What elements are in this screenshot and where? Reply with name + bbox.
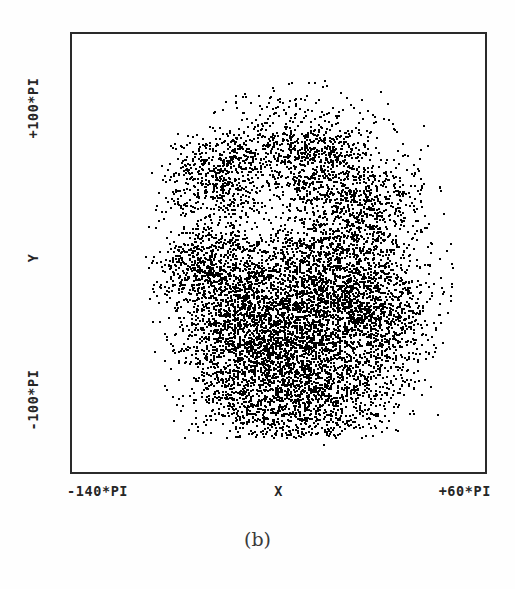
x-axis-max-label: +60*PI [439,483,491,499]
y-axis-max-label-text: +100*PI [25,77,41,138]
y-axis-min-label: -100*PI [0,392,66,408]
figure-caption: (b) [0,528,515,550]
y-axis-max-label: +100*PI [0,100,66,116]
y-axis-title: Y [0,250,66,266]
x-axis-label-row: -140*PI X +60*PI [70,483,487,509]
scatter-plot-canvas [72,34,485,472]
plot-frame [70,32,487,474]
y-axis-title-text: Y [25,254,41,263]
y-axis-min-label-text: -100*PI [25,369,41,430]
x-axis-title: X [274,483,283,499]
figure-panel: +100*PI Y -100*PI -140*PI X +60*PI (b) [0,0,515,589]
x-axis-min-label: -140*PI [67,483,128,499]
